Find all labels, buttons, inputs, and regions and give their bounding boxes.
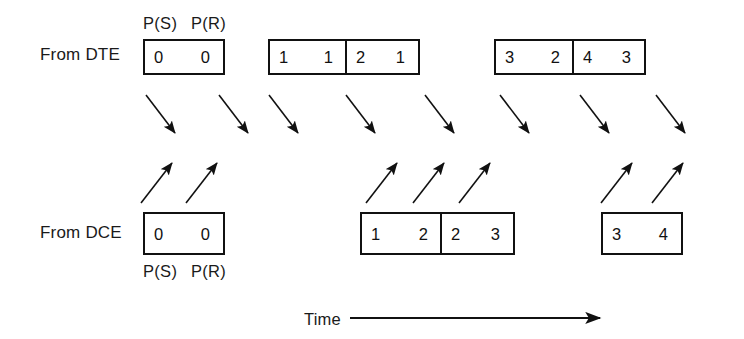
frame-cell[interactable]: 0 0 bbox=[145, 214, 222, 253]
cell-pr-value: 0 bbox=[201, 49, 210, 66]
arrow-down bbox=[346, 95, 375, 133]
header-ps-dte: P(S) bbox=[143, 15, 177, 32]
frame-group-dte-1[interactable]: 0 0 bbox=[143, 39, 225, 75]
arrow-up bbox=[186, 163, 217, 203]
arrow-up bbox=[366, 163, 397, 203]
cell-ps-value: 1 bbox=[371, 225, 380, 242]
diagram-canvas: From DTE P(S) P(R) 0 0 1 1 2 1 3 2 4 3 F… bbox=[0, 0, 744, 339]
footer-pr-dce: P(R) bbox=[191, 263, 226, 280]
cell-pr-value: 1 bbox=[324, 49, 333, 66]
down-arrows bbox=[146, 95, 685, 133]
arrow-down bbox=[425, 95, 454, 133]
arrow-up bbox=[652, 163, 683, 203]
frame-group-dte-2[interactable]: 1 1 2 1 bbox=[268, 39, 420, 75]
row-label-dce: From DCE bbox=[40, 224, 122, 241]
time-axis-label: Time bbox=[304, 311, 341, 328]
cell-pr-value: 2 bbox=[419, 225, 428, 242]
frame-cell[interactable]: 1 2 bbox=[362, 214, 440, 253]
cell-ps-value: 2 bbox=[356, 49, 365, 66]
arrow-down bbox=[656, 95, 685, 133]
arrow-up bbox=[141, 163, 172, 203]
cell-pr-value: 2 bbox=[551, 49, 560, 66]
cell-pr-value: 3 bbox=[491, 225, 500, 242]
arrow-down bbox=[500, 95, 529, 133]
frame-cell[interactable]: 3 2 bbox=[496, 41, 572, 73]
frame-cell[interactable]: 2 1 bbox=[345, 41, 417, 73]
cell-pr-value: 3 bbox=[622, 49, 631, 66]
frame-cell[interactable]: 4 3 bbox=[572, 41, 643, 73]
frame-group-dce-2[interactable]: 1 2 2 3 bbox=[360, 212, 515, 255]
cell-ps-value: 4 bbox=[583, 49, 592, 66]
cell-pr-value: 0 bbox=[201, 225, 210, 242]
arrow-down bbox=[269, 95, 298, 133]
row-label-dte: From DTE bbox=[40, 46, 120, 63]
cell-ps-value: 1 bbox=[279, 49, 288, 66]
cell-ps-value: 3 bbox=[505, 49, 514, 66]
cell-pr-value: 4 bbox=[659, 225, 668, 242]
cell-ps-value: 2 bbox=[451, 225, 460, 242]
arrow-down bbox=[219, 95, 248, 133]
header-pr-dte: P(R) bbox=[191, 15, 226, 32]
frame-group-dce-1[interactable]: 0 0 bbox=[143, 212, 225, 255]
frame-group-dce-3[interactable]: 3 4 bbox=[601, 212, 683, 255]
frame-cell[interactable]: 3 4 bbox=[603, 214, 680, 253]
cell-ps-value: 0 bbox=[154, 225, 163, 242]
frame-cell[interactable]: 0 0 bbox=[145, 41, 222, 73]
footer-ps-dce: P(S) bbox=[143, 263, 177, 280]
arrow-up bbox=[459, 163, 490, 203]
arrow-up bbox=[413, 163, 444, 203]
frame-cell[interactable]: 2 3 bbox=[440, 214, 512, 253]
frame-group-dte-3[interactable]: 3 2 4 3 bbox=[494, 39, 646, 75]
arrow-up bbox=[601, 163, 632, 203]
up-arrows bbox=[141, 163, 683, 203]
frame-cell[interactable]: 1 1 bbox=[270, 41, 345, 73]
cell-ps-value: 0 bbox=[154, 49, 163, 66]
arrow-down bbox=[146, 95, 175, 133]
arrow-down bbox=[580, 95, 609, 133]
cell-pr-value: 1 bbox=[396, 49, 405, 66]
cell-ps-value: 3 bbox=[612, 225, 621, 242]
